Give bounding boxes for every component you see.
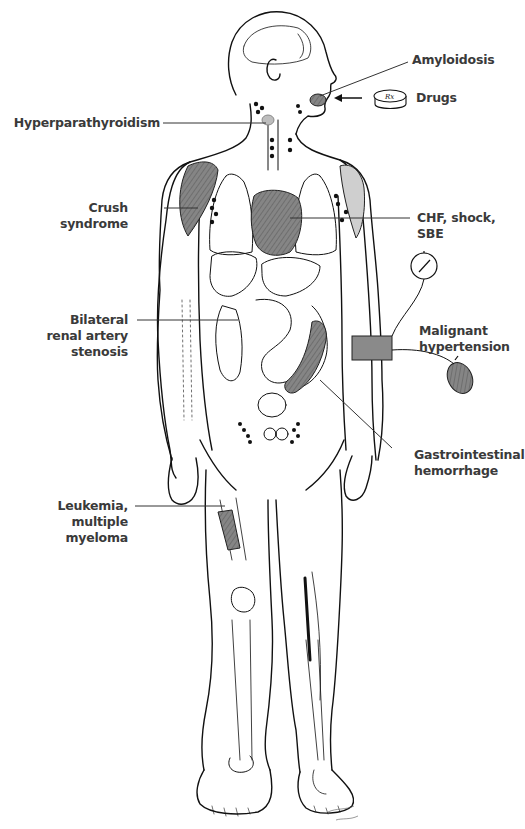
rx-pill: Rx (374, 90, 406, 109)
label-leukemia-myeloma: Leukemia, multiple myeloma (58, 498, 129, 546)
label-hyperparathyroidism: Hyperparathyroidism (14, 115, 160, 131)
right-foot (197, 770, 272, 814)
label-gi-hemorrhage: Gastrointestinal hemorrhage (414, 447, 525, 479)
head-outline (229, 12, 337, 134)
bone-marrow (218, 510, 240, 550)
drugs-arrow (334, 94, 362, 102)
left-leg-outline (276, 500, 300, 772)
left-foot (298, 770, 354, 813)
deltoid-left (340, 165, 365, 238)
lymph-nodes (210, 102, 348, 444)
torso-outline (157, 104, 251, 460)
svg-text:Rx: Rx (384, 93, 394, 101)
left-hand (344, 456, 372, 500)
label-renal-artery-stenosis: Bilateral renal artery stenosis (46, 312, 128, 360)
label-crush-syndrome: Crush syndrome (60, 200, 128, 232)
tongue (310, 94, 326, 106)
bp-cuff (352, 336, 392, 360)
label-drugs: Drugs (416, 90, 457, 106)
bp-bulb (442, 358, 477, 397)
label-chf-shock-sbe: CHF, shock, SBE (417, 210, 495, 242)
label-amyloidosis: Amyloidosis (412, 52, 495, 68)
right-leg-outline (202, 470, 212, 770)
leader-gi (320, 380, 392, 448)
label-malignant-hypertension: Malignant hypertension (419, 323, 510, 355)
colon-descending (285, 321, 327, 393)
shaded-regions (180, 94, 478, 550)
right-hand (168, 458, 198, 504)
heart (251, 190, 301, 255)
